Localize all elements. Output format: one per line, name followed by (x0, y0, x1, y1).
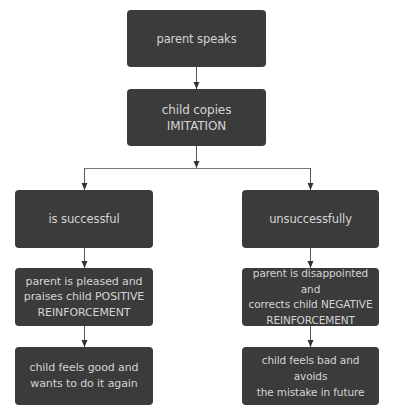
node-label: unsuccessfully (269, 211, 352, 227)
arrowhead-icon (308, 183, 314, 190)
arrowhead-icon (194, 82, 200, 89)
node-child-copies-imitation: child copies IMITATION (127, 89, 266, 146)
node-parent-speaks: parent speaks (127, 10, 266, 67)
node-label: parent speaks (156, 31, 236, 47)
node-label: parent is disappointed and corrects chil… (244, 266, 377, 328)
node-child-feels-good: child feels good and wants to do it agai… (15, 347, 153, 405)
node-label: child feels bad and avoids the mistake i… (244, 352, 377, 400)
node-child-feels-bad: child feels bad and avoids the mistake i… (242, 347, 379, 405)
flowchart: parent speaks child copies IMITATION is … (0, 0, 396, 420)
arrowhead-icon (82, 340, 88, 347)
node-positive-reinforcement: parent is pleased and praises child POSI… (15, 268, 153, 326)
node-label: parent is pleased and praises child POSI… (24, 274, 144, 321)
node-label: child copies IMITATION (162, 102, 232, 134)
arrowhead-icon (82, 261, 88, 268)
node-unsuccessfully: unsuccessfully (242, 190, 379, 248)
node-label: child feels good and wants to do it agai… (30, 360, 139, 392)
node-is-successful: is successful (15, 190, 153, 248)
node-label: is successful (48, 211, 119, 227)
arrowhead-icon (82, 183, 88, 190)
node-negative-reinforcement: parent is disappointed and corrects chil… (242, 268, 379, 326)
arrowhead-icon (194, 161, 200, 168)
arrowhead-icon (308, 340, 314, 347)
